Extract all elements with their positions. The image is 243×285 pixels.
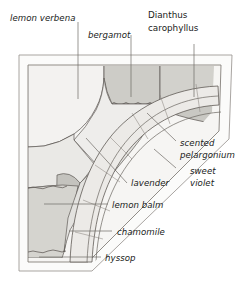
label-chamomile: chamomile [117, 227, 165, 237]
garden-plan-diagram: lemon verbena bergamot Dianthus carophyl… [0, 0, 243, 285]
label-scented-line2: pelargonium [179, 150, 235, 160]
label-lemon-verbena: lemon verbena [10, 13, 76, 23]
label-scented-line1: scented [180, 138, 215, 148]
label-hyssop: hyssop [105, 253, 136, 263]
label-sweet-line1: sweet [190, 166, 216, 176]
bed-bergamot [104, 65, 160, 104]
label-sweet-line2: violet [190, 178, 215, 188]
garden-plan-figure: lemon verbena bergamot Dianthus carophyl… [0, 0, 243, 285]
label-lavender: lavender [131, 178, 170, 188]
label-bergamot: bergamot [88, 30, 131, 40]
label-dianthus-line1: Dianthus [148, 10, 188, 20]
label-lemon-balm: lemon balm [112, 200, 163, 210]
label-dianthus-line2: carophyllus [148, 23, 199, 33]
